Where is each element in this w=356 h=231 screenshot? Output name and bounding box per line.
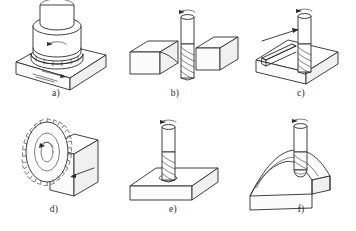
panel-d-slitting-saw (22, 119, 98, 196)
panel-f-contour-milling (250, 119, 330, 210)
panel-caption-f: f) (293, 205, 309, 215)
milling-operations-figure: a) b) c) d) e) f) (0, 0, 356, 231)
panel-e-plunge-milling (130, 120, 218, 200)
panel-caption-e: e) (165, 205, 181, 215)
figure-linework (0, 0, 356, 231)
panel-caption-d: d) (46, 205, 62, 215)
panel-a-face-milling (16, 0, 106, 90)
panel-caption-b: b) (167, 89, 183, 99)
panel-b-step-milling (130, 10, 238, 80)
panel-caption-a: a) (48, 89, 64, 99)
panel-caption-c: c) (293, 89, 309, 99)
panel-c-slot-milling (256, 9, 338, 84)
